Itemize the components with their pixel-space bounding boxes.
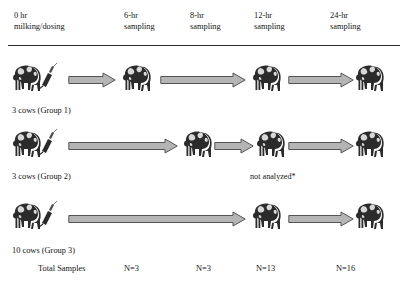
cow-icon-group2-t8 — [183, 128, 213, 160]
column-header-t6: 6-hrsampling — [124, 10, 155, 32]
column-header-action-t6: sampling — [124, 21, 155, 32]
column-header-action-t12: sampling — [254, 21, 285, 32]
column-header-time-t8: 8-hr — [190, 10, 221, 21]
cow-icon-group2-t12 — [256, 128, 286, 160]
not-analyzed-annotation: not analyzed* — [250, 172, 296, 182]
cow-icon-group2-t24 — [355, 128, 385, 160]
arrow-group2-1 — [214, 138, 254, 154]
arrow-group1-2 — [288, 72, 354, 88]
arrow-group2-2 — [288, 138, 354, 154]
column-header-t0: 0 hrmilking/dosing — [14, 10, 65, 32]
column-header-t24: 24-hrsampling — [330, 10, 361, 32]
cow-icon-group3-t24 — [355, 200, 385, 232]
syringe-icon-group1 — [38, 63, 58, 89]
group-label-group2: 3 cows (Group 2) — [12, 172, 71, 182]
cow-icon-group3-t12 — [252, 200, 282, 232]
arrow-group1-1 — [160, 72, 246, 88]
total-samples-t6: N=3 — [124, 264, 139, 274]
cow-icon-group1-t12 — [252, 62, 282, 94]
study-timeline-diagram: 0 hrmilking/dosing6-hrsampling8-hrsampli… — [0, 0, 409, 289]
total-samples-t24: N=16 — [336, 264, 355, 274]
column-header-time-t24: 24-hr — [330, 10, 361, 21]
total-samples-t8: N=3 — [196, 264, 211, 274]
group-label-group1: 3 cows (Group 1) — [12, 106, 71, 116]
syringe-icon-group3 — [38, 201, 58, 227]
syringe-icon-group2 — [38, 129, 58, 155]
group-label-group3: 10 cows (Group 3) — [12, 246, 75, 256]
cow-icon-group1-t24 — [355, 62, 385, 94]
column-header-time-t12: 12-hr — [254, 10, 285, 21]
header-divider-rule — [8, 45, 400, 46]
column-header-t12: 12-hrsampling — [254, 10, 285, 32]
arrow-group1-0 — [68, 72, 116, 88]
column-header-action-t24: sampling — [330, 21, 361, 32]
arrow-group3-1 — [288, 211, 354, 227]
cow-icon-group1-t6 — [122, 62, 152, 94]
arrow-group3-0 — [68, 211, 246, 227]
column-header-action-t8: sampling — [190, 21, 221, 32]
total-samples-label: Total Samples — [38, 264, 86, 274]
arrow-group2-0 — [68, 138, 178, 154]
column-header-time-t0: 0 hr — [14, 10, 65, 21]
column-header-action-t0: milking/dosing — [14, 21, 65, 32]
column-header-t8: 8-hrsampling — [190, 10, 221, 32]
total-samples-t12: N=13 — [256, 264, 275, 274]
column-header-time-t6: 6-hr — [124, 10, 155, 21]
